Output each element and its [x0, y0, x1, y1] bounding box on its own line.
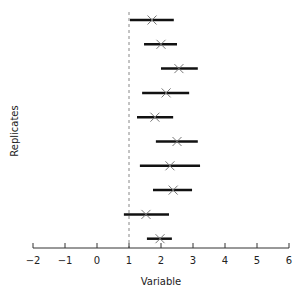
- x-tick-label: 4: [222, 255, 228, 266]
- x-tick-label: 2: [158, 255, 164, 266]
- interval-row: [130, 16, 174, 25]
- forest-plot: −2−10123456 Variable Replicates: [0, 0, 308, 301]
- interval-row: [156, 137, 198, 146]
- x-axis-ticks: −2−10123456: [26, 243, 293, 266]
- x-tick-label: −2: [26, 255, 41, 266]
- intervals-group: [124, 16, 200, 244]
- interval-row: [124, 210, 169, 219]
- interval-row: [142, 88, 189, 97]
- x-tick-label: 3: [190, 255, 196, 266]
- x-tick-label: 1: [126, 255, 132, 266]
- interval-row: [153, 186, 192, 195]
- interval-row: [144, 40, 177, 49]
- interval-row: [140, 161, 200, 170]
- interval-row: [137, 113, 173, 122]
- x-axis-label: Variable: [141, 276, 182, 287]
- interval-row: [161, 64, 198, 73]
- x-tick-label: 5: [254, 255, 260, 266]
- x-tick-label: 0: [94, 255, 100, 266]
- y-axis-label: Replicates: [9, 105, 20, 156]
- figure-caption-cropped: [36, 290, 266, 296]
- interval-row: [147, 234, 172, 243]
- x-tick-label: −1: [58, 255, 73, 266]
- x-tick-label: 6: [286, 255, 292, 266]
